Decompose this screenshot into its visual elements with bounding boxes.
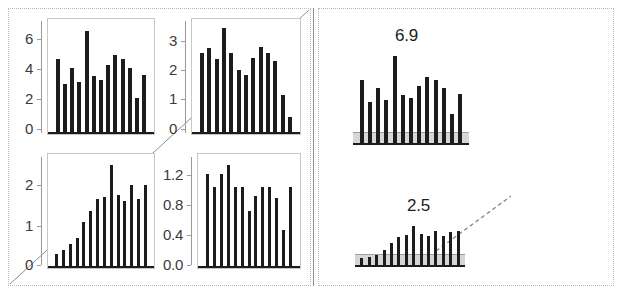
figure-canvas: 6 4 2 0 3 2 1 0 bbox=[0, 0, 621, 294]
bar bbox=[397, 237, 400, 267]
bar bbox=[449, 232, 452, 267]
bar bbox=[82, 222, 85, 268]
bar bbox=[425, 77, 429, 145]
y-tick-b-2 bbox=[181, 70, 185, 71]
bar bbox=[227, 165, 230, 268]
y-tick-label-a-4: 4 bbox=[13, 61, 33, 76]
baseline-d bbox=[198, 266, 300, 268]
bar bbox=[273, 61, 277, 134]
y-tick-label-a-0: 0 bbox=[13, 121, 33, 136]
bar bbox=[144, 185, 147, 268]
bar bbox=[420, 234, 423, 267]
panel-divider bbox=[313, 8, 314, 286]
bar bbox=[220, 174, 223, 268]
bar bbox=[69, 244, 72, 268]
bar bbox=[401, 95, 405, 145]
y-tick-label-b-1: 1 bbox=[159, 91, 177, 106]
y-tick-label-d-12: 1.2 bbox=[153, 167, 183, 182]
panel-top-right: 3 2 1 0 bbox=[161, 17, 305, 139]
bar bbox=[254, 196, 257, 268]
bar bbox=[222, 28, 226, 134]
plot-area-top-left bbox=[47, 18, 155, 135]
y-tick-d-12 bbox=[187, 175, 191, 176]
bar bbox=[121, 59, 125, 134]
bar bbox=[206, 174, 209, 268]
bar bbox=[207, 48, 211, 134]
bar bbox=[442, 236, 445, 267]
right-panel-2-5: 2.5 bbox=[355, 221, 465, 267]
bar bbox=[63, 84, 67, 134]
left-panel-frame: 6 4 2 0 3 2 1 0 bbox=[8, 8, 311, 286]
bar bbox=[130, 185, 133, 268]
bar bbox=[360, 80, 364, 145]
bar bbox=[142, 75, 146, 134]
bar bbox=[77, 82, 81, 134]
bar bbox=[110, 165, 113, 268]
bar bbox=[251, 58, 255, 134]
bar bbox=[427, 236, 430, 267]
bar bbox=[135, 98, 139, 134]
baseline-r1 bbox=[353, 143, 469, 145]
bar-series-r3 bbox=[355, 221, 465, 267]
bar bbox=[405, 235, 408, 267]
y-tick-b-0 bbox=[181, 129, 185, 130]
bar bbox=[76, 238, 79, 268]
bar bbox=[450, 114, 454, 145]
bar bbox=[368, 102, 372, 145]
bar-series-b bbox=[192, 19, 300, 134]
bar bbox=[289, 187, 292, 268]
panel-bottom-left: 2 1 0 bbox=[15, 151, 157, 273]
bar bbox=[409, 98, 413, 145]
y-tick-label-a-6: 6 bbox=[13, 31, 33, 46]
bar bbox=[215, 59, 219, 134]
bar bbox=[96, 199, 99, 268]
plot-area-bottom-right bbox=[197, 153, 301, 269]
bar bbox=[457, 231, 460, 267]
y-tick-a-0 bbox=[37, 129, 41, 130]
y-tick-d-00 bbox=[187, 265, 191, 266]
bar bbox=[275, 198, 278, 268]
panel-bottom-right: 1.2 0.8 0.4 0.0 bbox=[157, 151, 305, 273]
y-tick-label-d-08: 0.8 bbox=[153, 197, 183, 212]
bar bbox=[417, 86, 421, 145]
peak-value-label-2-5: 2.5 bbox=[407, 197, 430, 214]
y-tick-label-c-1: 1 bbox=[13, 218, 33, 233]
bar bbox=[259, 47, 263, 134]
bar bbox=[123, 201, 126, 268]
bar bbox=[103, 197, 106, 268]
baseline-c bbox=[48, 266, 154, 268]
y-tick-c-0 bbox=[37, 265, 41, 266]
bar bbox=[137, 199, 140, 268]
y-tick-c-2 bbox=[37, 185, 41, 186]
y-axis-line-a bbox=[41, 21, 42, 133]
bar bbox=[234, 187, 237, 268]
y-tick-label-b-2: 2 bbox=[159, 62, 177, 77]
y-tick-b-1 bbox=[181, 99, 185, 100]
y-tick-a-2 bbox=[37, 99, 41, 100]
y-axis-line-b bbox=[185, 21, 186, 133]
bar bbox=[282, 230, 285, 268]
y-tick-d-04 bbox=[187, 235, 191, 236]
bar bbox=[261, 187, 264, 268]
bar bbox=[99, 80, 103, 134]
right-panel-6-9: 6.9 bbox=[353, 27, 469, 145]
plot-area-bottom-left bbox=[47, 153, 155, 269]
bar bbox=[376, 88, 380, 145]
bar bbox=[237, 70, 241, 134]
bar bbox=[92, 76, 96, 134]
bar bbox=[266, 53, 270, 134]
bar-series-a bbox=[48, 19, 154, 134]
bar bbox=[106, 65, 110, 134]
bar bbox=[128, 68, 132, 134]
y-tick-b-3 bbox=[181, 41, 185, 42]
y-tick-label-c-2: 2 bbox=[13, 177, 33, 192]
bar-series-r1 bbox=[353, 49, 469, 145]
bar-series-d bbox=[198, 154, 300, 268]
bar bbox=[458, 94, 462, 145]
y-tick-label-b-0: 0 bbox=[159, 121, 177, 136]
bar bbox=[70, 68, 74, 134]
bar bbox=[56, 59, 60, 134]
bar bbox=[393, 56, 397, 145]
y-axis-line-d bbox=[191, 157, 192, 265]
y-tick-c-1 bbox=[37, 226, 41, 227]
